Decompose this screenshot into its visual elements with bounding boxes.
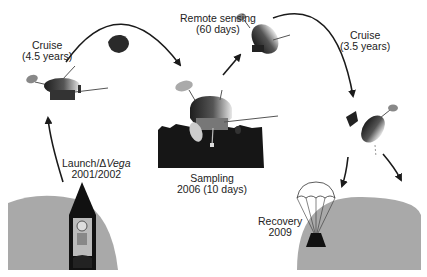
earth-launch-icon — [8, 196, 118, 270]
rocket-icon — [69, 182, 96, 270]
label-remote-sensing: Remote sensing (60 days) — [180, 13, 256, 35]
recovery-date: 2009 — [258, 227, 302, 238]
spacecraft-icon — [25, 66, 108, 100]
arrow-remote-to-return — [273, 14, 353, 96]
cruise-1-duration: (4.5 years) — [22, 51, 72, 62]
label-sampling: Sampling 2006 (10 days) — [177, 173, 247, 195]
label-cruise-2: Cruise (3.5 years) — [340, 30, 390, 52]
label-recovery: Recovery 2009 — [258, 216, 302, 238]
arrow-craft-flyby — [383, 154, 401, 180]
arrow-sampling-to-remote — [223, 55, 240, 75]
sampling-date: 2006 (10 days) — [177, 184, 247, 195]
arrow-launch-to-cruise — [48, 118, 63, 182]
arrow-capsule-descent — [342, 157, 348, 186]
remote-sensing-duration: (60 days) — [180, 24, 256, 35]
launch-date: 2001/2002 — [62, 169, 131, 180]
capsule-icon — [346, 105, 398, 158]
label-launch: Launch/ΔVega 2001/2002 — [62, 158, 131, 180]
cruise-2-duration: (3.5 years) — [340, 41, 390, 52]
asteroid-icon — [108, 35, 129, 53]
label-cruise-1: Cruise (4.5 years) — [22, 40, 72, 62]
lander-icon — [158, 79, 278, 168]
